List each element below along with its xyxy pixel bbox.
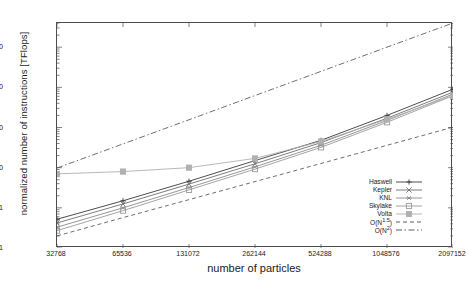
legend-item: Haswell [327,178,423,186]
legend-swatch [395,210,423,218]
legend-item: Skylake [327,202,423,210]
y-tick-label: 10000 [0,42,3,51]
x-tick-label: 65536 [92,250,152,257]
legend-item: KNL [327,194,423,202]
x-tick-label: 32768 [26,250,86,257]
x-tick-label: 2097152 [422,250,470,257]
y-tick-label: 1 [0,202,3,211]
series-o-n-2- [57,23,453,168]
legend-swatch [395,218,423,226]
legend-swatch [395,186,423,194]
y-tick-label: 0.1 [0,243,3,252]
y-axis-label: normalized number of instructions [TFlop… [18,9,29,239]
chart-legend: HaswellKeplerKNLSkylakeVoltaO(N1.5)O(N2) [327,178,423,234]
y-tick-label: 100 [0,122,3,131]
legend-label: Haswell [369,178,395,186]
x-tick-label: 262144 [224,250,284,257]
legend-swatch [395,178,423,186]
legend-item: Kepler [327,186,423,194]
legend-item: O(N2) [327,226,423,234]
y-tick-label: 10 [0,162,3,171]
x-axis-label: number of particles [56,262,452,274]
x-tick-label: 524288 [290,250,350,257]
x-tick-label: 131072 [158,250,218,257]
legend-swatch [395,202,423,210]
legend-label: O(N2) [375,224,395,235]
legend-label: Skylake [369,202,395,210]
x-tick-label: 1048576 [356,250,416,257]
y-tick-label: 1000 [0,82,3,91]
legend-swatch [395,226,423,234]
legend-label: KNL [379,194,395,202]
legend-swatch [395,194,423,202]
legend-label: Kepler [373,186,395,194]
